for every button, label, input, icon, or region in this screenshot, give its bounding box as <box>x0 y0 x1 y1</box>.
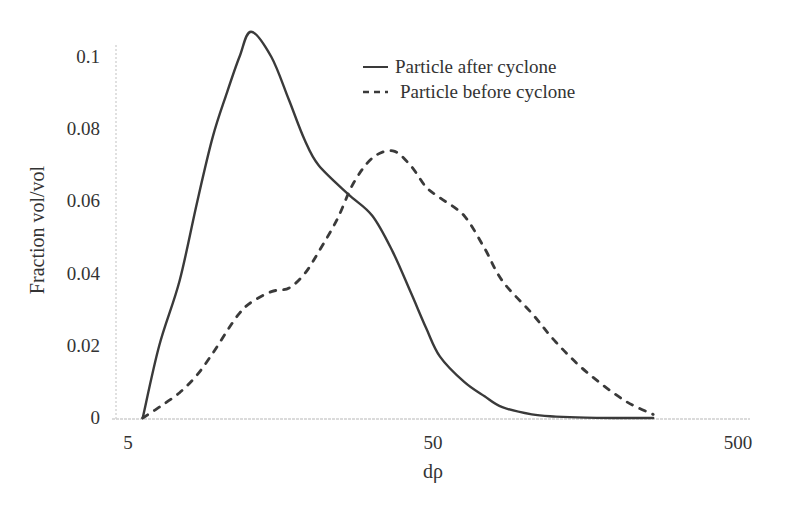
y-tick-label: 0 <box>91 407 101 428</box>
x-axis-label: dρ <box>423 460 443 483</box>
legend-item-before: Particle before cyclone <box>400 81 575 102</box>
x-tick-label: 5 <box>123 432 133 453</box>
legend: Particle after cyclone Particle before c… <box>363 56 575 102</box>
y-tick-label: 0.06 <box>67 190 100 211</box>
chart: 00.020.040.060.080.1 550500 Fraction vol… <box>0 0 790 508</box>
x-tick-label: 500 <box>724 432 753 453</box>
y-tick-label: 0.02 <box>67 335 100 356</box>
y-axis-label: Fraction vol/vol <box>26 165 48 294</box>
plot-series <box>143 32 654 418</box>
y-tick-label: 0.04 <box>67 263 101 284</box>
x-tick-label: 50 <box>424 432 443 453</box>
series-after-cyclone-line <box>143 32 654 418</box>
y-axis-ticks: 00.020.040.060.080.1 <box>67 46 101 428</box>
legend-item-after: Particle after cyclone <box>395 56 556 77</box>
y-tick-label: 0.08 <box>67 118 100 139</box>
y-tick-label: 0.1 <box>76 46 100 67</box>
x-axis-ticks: 550500 <box>123 432 752 453</box>
series-before-cyclone-line <box>143 151 654 418</box>
